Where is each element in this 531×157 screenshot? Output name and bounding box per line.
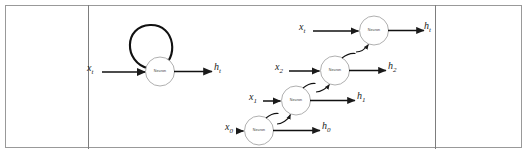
- neuron-circle-label-step-1: Neuron: [290, 99, 302, 103]
- page-frame: [5, 5, 522, 148]
- input-label-step-t-sub: t: [303, 27, 305, 35]
- output-label-step-0-sub: 0: [327, 126, 331, 134]
- input-label-step-1: x1: [249, 92, 257, 105]
- input-label-step-2-sub: 2: [279, 67, 283, 75]
- output-label-step-t-sub: t: [429, 26, 431, 34]
- output-label-step-1: h1: [357, 91, 366, 104]
- column-divider-left: [88, 5, 89, 149]
- neuron-circle-label-step-0: Neuron: [253, 129, 265, 133]
- output-label-step-2-sub: 2: [393, 66, 397, 74]
- neuron-circle-label-step-t: Neuron: [368, 29, 380, 33]
- output-label-step-2: h2: [388, 61, 397, 74]
- input-label-folded: xt: [87, 63, 93, 76]
- input-label-step-0-sub: 0: [229, 127, 233, 135]
- figure-page: Neuron xt ht Neuron Neuron Neuron Neuron…: [0, 0, 531, 157]
- output-label-step-0: h0: [322, 121, 331, 134]
- neuron-circle-label-step-2: Neuron: [329, 69, 341, 73]
- input-label-step-1-sub: 1: [253, 97, 257, 105]
- input-label-step-t: xt: [299, 22, 305, 35]
- output-label-step-t: ht: [424, 21, 431, 34]
- input-label-step-2: x2: [275, 62, 283, 75]
- output-label-folded-sub: t: [219, 67, 221, 75]
- column-divider-right: [435, 5, 436, 149]
- input-label-step-0: x0: [225, 122, 233, 135]
- output-label-folded: ht: [214, 62, 221, 75]
- neuron-circle-label-folded: Neuron: [154, 70, 166, 74]
- output-label-step-1-sub: 1: [362, 96, 366, 104]
- input-label-folded-sub: t: [91, 68, 93, 76]
